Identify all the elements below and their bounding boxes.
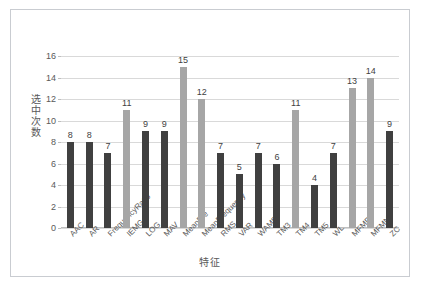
bar[interactable]: 8 xyxy=(86,142,93,228)
bar-value-label: 4 xyxy=(312,173,317,183)
bar-series: 8AAC8AR7FrequencyRatio11IEMG9LOG9MAV15Me… xyxy=(61,56,399,228)
bar[interactable]: 4 xyxy=(311,185,318,228)
bar-value-label: 15 xyxy=(178,55,188,65)
bar-value-label: 14 xyxy=(366,66,376,76)
y-tick-label: 2 xyxy=(51,202,56,212)
y-tick-label: 12 xyxy=(46,94,56,104)
plot-area: 0246810121416 8AAC8AR7FrequencyRatio11IE… xyxy=(61,56,399,228)
y-tick-label: 0 xyxy=(51,223,56,233)
bar-value-label: 5 xyxy=(237,162,242,172)
bar[interactable]: 9 xyxy=(386,131,393,228)
bar[interactable]: 7 xyxy=(330,153,337,228)
bar-value-label: 8 xyxy=(87,130,92,140)
y-tick-label: 4 xyxy=(51,180,56,190)
bar[interactable]: 11 xyxy=(123,110,130,228)
bar-chart: 选中次数 0246810121416 8AAC8AR7FrequencyRati… xyxy=(11,10,409,276)
bar[interactable]: 14 xyxy=(367,78,374,229)
bar-value-label: 12 xyxy=(197,87,207,97)
bar[interactable]: 7 xyxy=(255,153,262,228)
bar[interactable]: 6 xyxy=(273,164,280,229)
bar[interactable]: 15 xyxy=(180,67,187,228)
bar[interactable]: 9 xyxy=(161,131,168,228)
bar[interactable]: 9 xyxy=(142,131,149,228)
bar-value-label: 9 xyxy=(162,119,167,129)
bar[interactable]: 8 xyxy=(67,142,74,228)
y-tick-mark xyxy=(58,228,61,229)
bar-value-label: 13 xyxy=(347,76,357,86)
y-tick-label: 14 xyxy=(46,73,56,83)
y-tick-label: 16 xyxy=(46,51,56,61)
bar[interactable]: 12 xyxy=(198,99,205,228)
bar-value-label: 11 xyxy=(291,98,300,108)
bar[interactable]: 7 xyxy=(217,153,224,228)
bar-value-label: 9 xyxy=(387,119,392,129)
bar-value-label: 9 xyxy=(143,119,148,129)
bar-value-label: 8 xyxy=(68,130,73,140)
bar[interactable]: 5 xyxy=(236,174,243,228)
bar[interactable]: 11 xyxy=(292,110,299,228)
bar-value-label: 7 xyxy=(218,141,223,151)
x-axis-title: 特征 xyxy=(11,254,409,269)
y-tick-label: 6 xyxy=(51,159,56,169)
bar[interactable]: 13 xyxy=(349,88,356,228)
y-axis-title: 选中次数 xyxy=(25,94,39,138)
y-tick-label: 10 xyxy=(46,116,56,126)
bar-value-label: 7 xyxy=(331,141,336,151)
bar-value-label: 7 xyxy=(105,141,110,151)
chart-frame: 选中次数 0246810121416 8AAC8AR7FrequencyRati… xyxy=(10,9,410,277)
y-tick-label: 8 xyxy=(51,137,56,147)
bar-value-label: 11 xyxy=(122,98,131,108)
bar-value-label: 7 xyxy=(256,141,261,151)
bar-value-label: 6 xyxy=(274,152,279,162)
bar[interactable]: 7 xyxy=(104,153,111,228)
